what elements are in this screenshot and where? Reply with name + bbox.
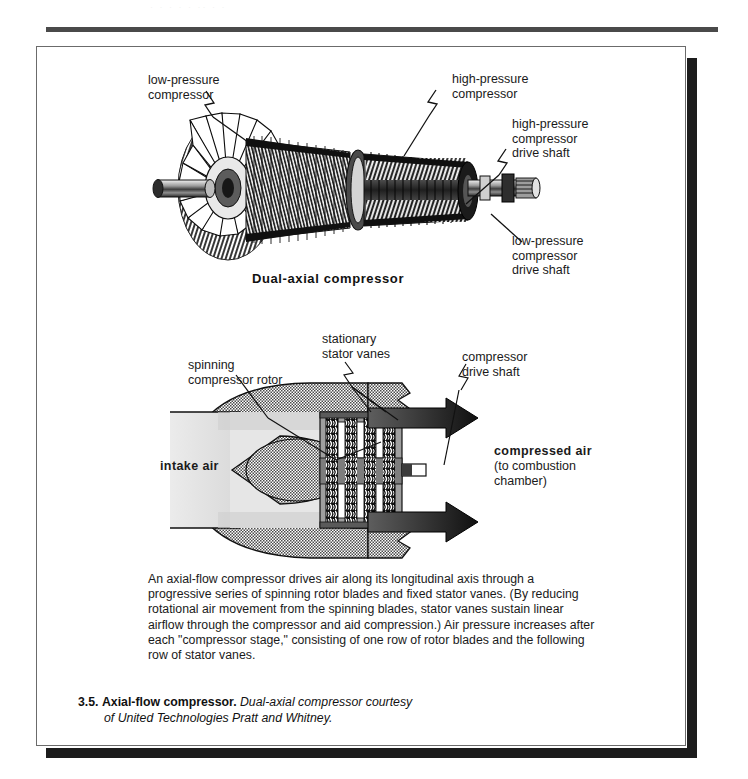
figure-caption: 3.5. Axial-flow compressor. Dual-axial c… [78,694,548,726]
label-spinning-compressor-rotor: spinning compressor rotor [188,358,282,387]
top-rule [46,27,718,32]
dual-axial-compressor-title: Dual-axial compressor [252,271,404,286]
top-diagram-leader-lines [36,46,686,306]
caption-source-line1: Dual-axial compressor courtesy [240,695,412,709]
label-intake-air: intake air [160,459,219,474]
label-high-pressure-compressor: high-pressure compressor [452,72,528,101]
label-stationary-stator-vanes: stationary stator vanes [322,332,390,361]
figure-shadow-right [687,58,697,758]
label-high-pressure-compressor-drive-shaft: high-pressure compressor drive shaft [512,117,588,161]
label-compressed-air-destination: (to combustion chamber) [494,459,576,488]
label-compressor-drive-shaft: compressor drive shaft [462,350,527,379]
caption-source-line2: of United Technologies Pratt and Whitney… [78,710,548,726]
label-low-pressure-compressor: low-pressure compressor [148,73,220,102]
caption-title: Axial-flow compressor. [102,695,237,709]
page-bleed-text: · · · · · ·· · · [150,2,570,12]
caption-number: 3.5. [78,695,99,709]
label-compressed-air: compressed air [494,444,592,459]
figure-body-text: An axial-flow compressor drives air alon… [148,572,600,663]
label-low-pressure-compressor-drive-shaft: low-pressure compressor drive shaft [512,234,584,278]
figure-shadow-bottom [46,748,697,758]
